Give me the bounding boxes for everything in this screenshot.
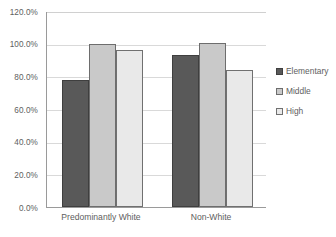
legend-item-label: Middle	[286, 86, 311, 96]
x-axis-category-labels: Predominantly WhiteNon-White	[46, 212, 266, 234]
y-axis-tick-label: 20.0%	[0, 171, 42, 180]
bar-high-1[interactable]	[226, 70, 253, 207]
legend-item-label: Elementary	[286, 66, 328, 76]
legend-item-middle[interactable]: Middle	[276, 82, 336, 100]
legend-item-high[interactable]: High	[276, 102, 336, 120]
legend-swatch-icon	[276, 108, 283, 115]
legend-item-elementary[interactable]: Elementary	[276, 62, 336, 80]
y-axis-tick-label: 0.0%	[0, 204, 42, 213]
y-axis-tick-label: 80.0%	[0, 73, 42, 82]
plot-area	[46, 12, 266, 208]
bar-middle-0[interactable]	[89, 44, 116, 207]
y-axis-tick-label: 40.0%	[0, 138, 42, 147]
y-axis-tick-label: 60.0%	[0, 106, 42, 115]
y-axis-tick-label: 100.0%	[0, 40, 42, 49]
bar-elementary-0[interactable]	[62, 80, 89, 207]
bar-middle-1[interactable]	[199, 43, 226, 207]
bar-chart: 0.0%20.0%40.0%60.0%80.0%100.0%120.0% Pre…	[0, 0, 336, 237]
y-axis-tick-label: 120.0%	[0, 8, 42, 17]
legend-item-label: High	[286, 106, 303, 116]
x-axis-tick-label: Non-White	[156, 212, 266, 223]
legend-swatch-icon	[276, 88, 283, 95]
bars-layer	[47, 12, 266, 207]
bar-group	[47, 12, 157, 207]
bar-group	[157, 12, 267, 207]
bar-high-0[interactable]	[116, 50, 143, 207]
x-axis-tick-label: Predominantly White	[46, 212, 156, 223]
y-axis-tick-labels: 0.0%20.0%40.0%60.0%80.0%100.0%120.0%	[0, 0, 42, 237]
chart-legend: ElementaryMiddleHigh	[276, 62, 336, 122]
legend-swatch-icon	[276, 68, 283, 75]
bar-elementary-1[interactable]	[172, 55, 199, 207]
